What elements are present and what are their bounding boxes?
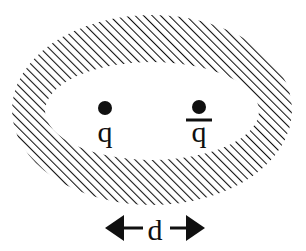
diagram-canvas: q q d bbox=[0, 0, 306, 251]
antiquark-dot bbox=[192, 100, 206, 114]
antiquark-label: q bbox=[192, 115, 207, 148]
quark-label: q bbox=[98, 115, 113, 148]
physics-diagram-figure: q q d bbox=[0, 0, 306, 251]
quark-dot bbox=[98, 101, 112, 115]
separation-distance-label: d bbox=[148, 213, 163, 246]
